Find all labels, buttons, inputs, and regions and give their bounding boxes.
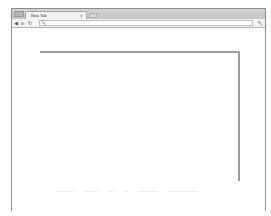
tab-strip: New Tab ×: [12, 9, 265, 19]
back-icon[interactable]: ◀: [13, 20, 19, 26]
new-tab-button[interactable]: [88, 13, 98, 18]
content-box-top-border: [40, 51, 239, 53]
browser-window: New Tab × ◀ ▶ ↻ 🔍 🔧: [11, 8, 266, 211]
faint-footer-row: [56, 191, 226, 194]
window-controls[interactable]: [14, 11, 24, 17]
page-content: [12, 28, 265, 211]
toolbar: ◀ ▶ ↻ 🔍 🔧: [12, 19, 265, 28]
wrench-menu-icon[interactable]: 🔧: [257, 20, 263, 26]
reload-icon[interactable]: ↻: [27, 20, 33, 26]
address-bar[interactable]: 🔍: [39, 20, 253, 26]
forward-icon[interactable]: ▶: [20, 20, 26, 26]
content-box-right-border: [238, 51, 240, 181]
search-icon: 🔍: [41, 20, 46, 26]
